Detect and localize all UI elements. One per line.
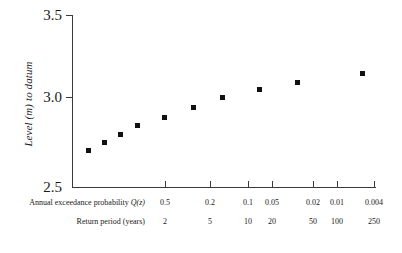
probability-symbol: Q(z) [131, 198, 145, 207]
x-tick-0.05 [272, 181, 273, 188]
probability-axis-label-text: Annual exceedance probability [29, 198, 131, 207]
figure-container: Level (m) to datum 3.5 3.0 2.5 Annual ex… [0, 0, 402, 253]
return-period-value-20: 20 [257, 217, 287, 226]
probability-value-0.05: 0.05 [257, 198, 287, 207]
probability-value-0.01: 0.01 [322, 198, 352, 207]
return-period-value-2: 2 [150, 217, 180, 226]
x-tick-0.004 [374, 181, 375, 188]
x-tick-0.1 [248, 181, 249, 188]
data-point [102, 140, 107, 145]
data-point [295, 80, 300, 85]
x-tick-0.5 [165, 181, 166, 188]
y-tick-label-3.5: 3.5 [28, 8, 62, 23]
return-period-value-250: 250 [359, 217, 389, 226]
probability-value-0.004: 0.004 [359, 198, 389, 207]
probability-value-0.2: 0.2 [195, 198, 225, 207]
data-point [86, 148, 91, 153]
y-tick-label-3.0: 3.0 [28, 90, 62, 105]
y-tick-3.5 [66, 15, 73, 16]
return-period-value-5: 5 [195, 217, 225, 226]
y-tick-label-2.5: 2.5 [28, 180, 62, 195]
probability-value-0.5: 0.5 [150, 198, 180, 207]
y-tick-3.0 [66, 97, 73, 98]
data-point [360, 71, 365, 76]
x-tick-0.01 [337, 181, 338, 188]
data-point [220, 95, 225, 100]
return-period-axis-label: Return period (years) [10, 217, 145, 226]
return-period-value-100: 100 [322, 217, 352, 226]
data-point [118, 132, 123, 137]
x-tick-0.02 [313, 181, 314, 188]
data-point [135, 123, 140, 128]
x-axis-line [72, 187, 376, 188]
data-point [162, 115, 167, 120]
y-axis-line [72, 15, 73, 188]
data-point [257, 87, 262, 92]
data-point [191, 105, 196, 110]
probability-axis-label: Annual exceedance probability Q(z) [10, 198, 145, 207]
x-tick-0.2 [210, 181, 211, 188]
